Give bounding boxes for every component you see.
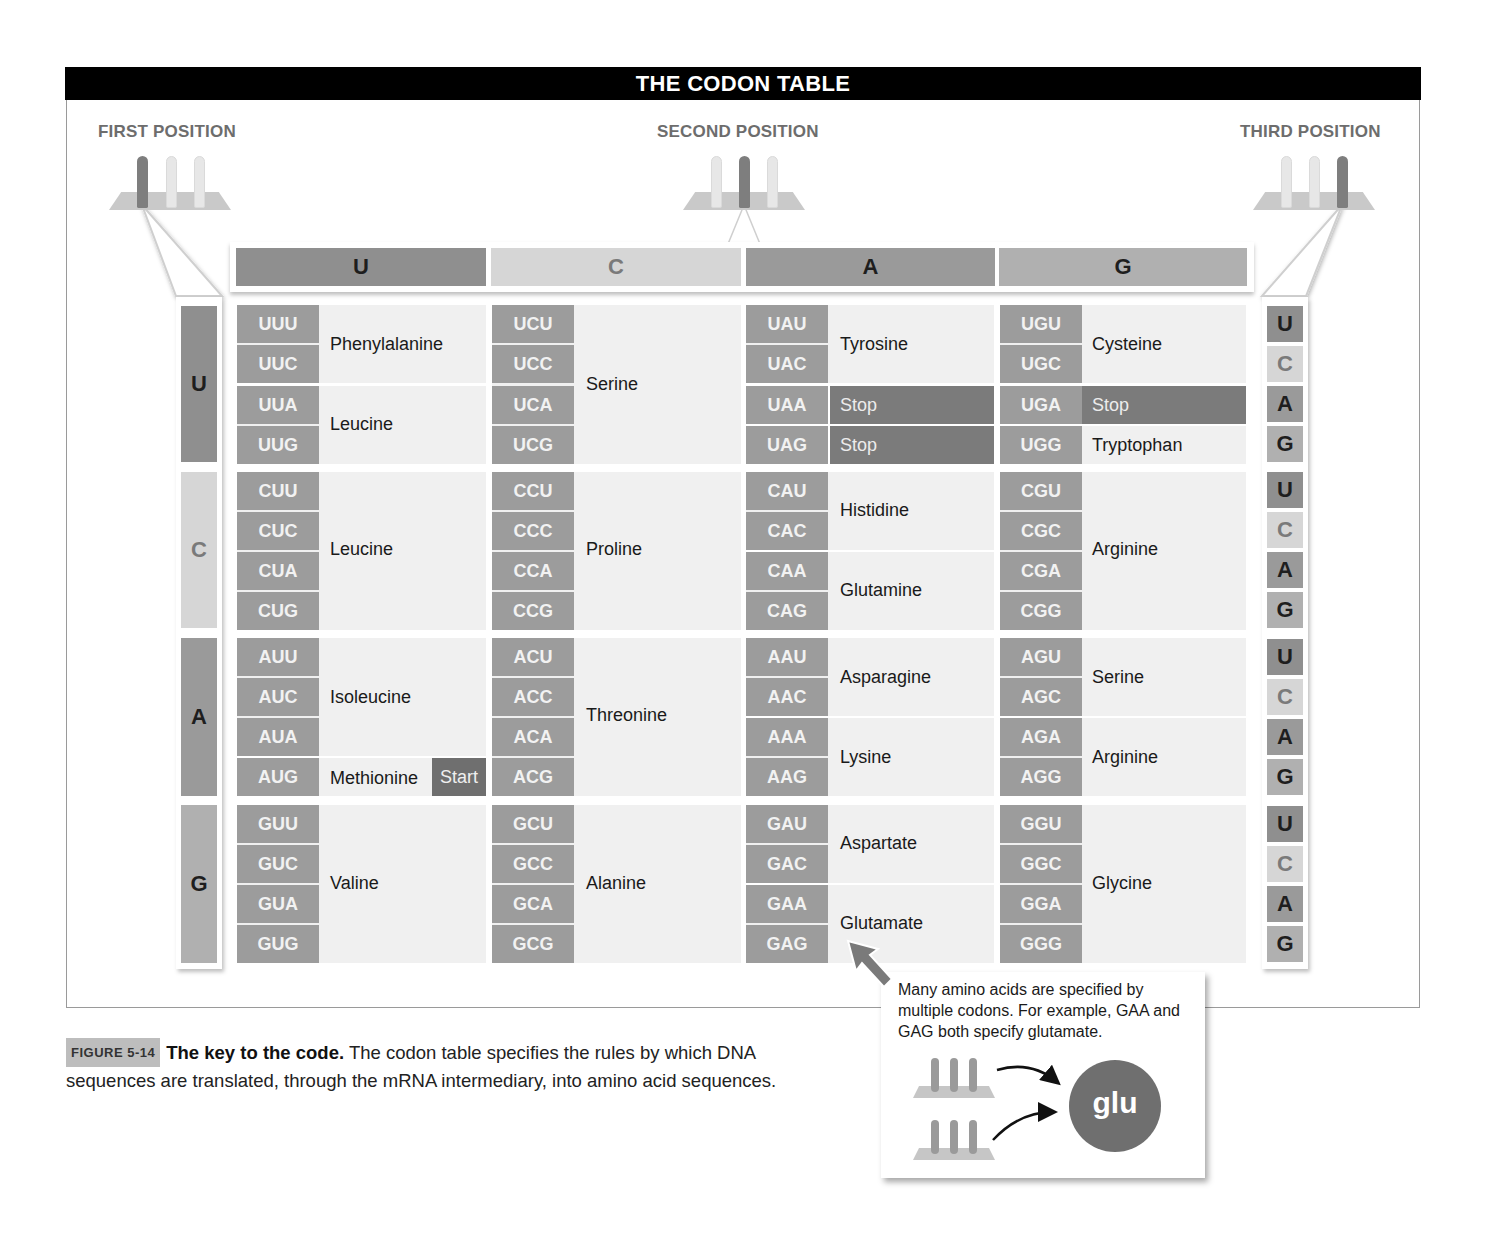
third-base-a: A xyxy=(1267,886,1303,922)
codon-cell: CCC xyxy=(492,512,574,550)
amino-acid-label: Glycine xyxy=(1092,872,1152,894)
third-base-a: A xyxy=(1267,552,1303,588)
codon-cell: GGU xyxy=(1000,805,1082,843)
codon-cell: CUG xyxy=(237,592,319,630)
amino-acid-label: Threonine xyxy=(586,704,667,726)
second-position-header: U C A G xyxy=(230,242,1254,292)
third-base-c: C xyxy=(1267,512,1303,548)
codon-cell: GGA xyxy=(1000,885,1082,923)
codon-cell: AAA xyxy=(746,718,828,756)
third-base-u: U xyxy=(1267,806,1303,842)
codon-cell: CGA xyxy=(1000,552,1082,590)
third-base-g: G xyxy=(1267,426,1303,462)
second-base-g: G xyxy=(999,248,1247,286)
codon-cell: UGA xyxy=(1000,386,1082,424)
codon-cell: UUG xyxy=(237,426,319,464)
codon-cell: AGG xyxy=(1000,758,1082,796)
codon-cell: AUC xyxy=(237,678,319,716)
codon-icon-gag xyxy=(913,1120,995,1160)
start-codon-badge: Start xyxy=(432,758,486,796)
codon-cell: GCU xyxy=(492,805,574,843)
codon-cell: UGU xyxy=(1000,305,1082,343)
codon-cell: ACC xyxy=(492,678,574,716)
codon-cell: UUC xyxy=(237,345,319,383)
amino-acid-label: Phenylalanine xyxy=(330,333,443,355)
codon-icon-gaa xyxy=(913,1058,995,1098)
second-position-codon-icon xyxy=(683,156,807,220)
amino-acid-label: Cysteine xyxy=(1092,333,1162,355)
codon-cell: AGU xyxy=(1000,638,1082,676)
codon-cell: CGC xyxy=(1000,512,1082,550)
codon-cell: AUA xyxy=(237,718,319,756)
first-base-a: A xyxy=(181,638,217,796)
third-base-g: G xyxy=(1267,592,1303,628)
codon-cell: UGG xyxy=(1000,426,1082,464)
codon-cell: AAG xyxy=(746,758,828,796)
codon-cell: UCG xyxy=(492,426,574,464)
codon-cell: CCU xyxy=(492,472,574,510)
codon-cell: UUA xyxy=(237,386,319,424)
amino-acid-label: Tyrosine xyxy=(840,333,908,355)
codon-cell: CUC xyxy=(237,512,319,550)
codon-cell: CUU xyxy=(237,472,319,510)
codon-cell: ACU xyxy=(492,638,574,676)
third-position-column: U C A G U C A G U C A G U C A G xyxy=(1262,297,1308,969)
codon-cell: GAG xyxy=(746,925,828,963)
third-base-u: U xyxy=(1267,472,1303,508)
codon-cell: UAA xyxy=(746,386,828,424)
codon-cell: UCU xyxy=(492,305,574,343)
third-base-g: G xyxy=(1267,926,1303,962)
second-base-a: A xyxy=(746,248,995,286)
codon-cell: GUU xyxy=(237,805,319,843)
codon-cell: CAU xyxy=(746,472,828,510)
codon-cell: UCC xyxy=(492,345,574,383)
amino-acid-label: Proline xyxy=(586,538,642,560)
amino-acid-label: Valine xyxy=(330,872,379,894)
first-position-label: FIRST POSITION xyxy=(98,122,236,142)
amino-acid-label: Leucine xyxy=(330,413,393,435)
codon-cell: GUA xyxy=(237,885,319,923)
amino-acid-label: Methionine xyxy=(330,767,418,789)
amino-acid-label: Arginine xyxy=(1092,538,1158,560)
first-base-u: U xyxy=(181,306,217,462)
codon-cell: UCA xyxy=(492,386,574,424)
codon-cell: GAU xyxy=(746,805,828,843)
first-base-g: G xyxy=(181,805,217,963)
third-base-a: A xyxy=(1267,386,1303,422)
codon-cell: GCA xyxy=(492,885,574,923)
amino-acid-label: Serine xyxy=(586,373,638,395)
codon-cell: CGG xyxy=(1000,592,1082,630)
codon-cell: AAC xyxy=(746,678,828,716)
codon-cell: CCG xyxy=(492,592,574,630)
degeneracy-callout: Many amino acids are specified by multip… xyxy=(881,972,1205,1178)
codon-cell: CAA xyxy=(746,552,828,590)
first-position-codon-icon xyxy=(109,156,233,220)
third-base-c: C xyxy=(1267,679,1303,715)
first-base-c: C xyxy=(181,472,217,628)
codon-cell: AUG xyxy=(237,758,319,796)
stop-codon-label: Stop xyxy=(830,426,994,464)
third-base-u: U xyxy=(1267,306,1303,342)
glutamate-badge: glu xyxy=(1069,1060,1161,1152)
amino-acid-label: Isoleucine xyxy=(330,686,411,708)
second-base-c: C xyxy=(491,248,741,286)
amino-acid-label: Tryptophan xyxy=(1092,434,1182,456)
third-position-codon-icon xyxy=(1253,156,1377,220)
codon-cell: GAA xyxy=(746,885,828,923)
second-base-u: U xyxy=(236,248,486,286)
codon-to-amino-acid-diagram xyxy=(881,972,1205,1178)
amino-acid-label: Serine xyxy=(1092,666,1144,688)
callout-pointer-arrow xyxy=(840,935,900,995)
third-position-label: THIRD POSITION xyxy=(1240,122,1381,142)
figure-number-tag: FIGURE 5-14 xyxy=(66,1038,160,1067)
codon-cell: AGA xyxy=(1000,718,1082,756)
codon-cell: ACG xyxy=(492,758,574,796)
codon-cell: GCG xyxy=(492,925,574,963)
amino-acid-label: Glutamate xyxy=(840,912,923,934)
amino-acid-label: Lysine xyxy=(840,746,891,768)
codon-cell: GGG xyxy=(1000,925,1082,963)
codon-cell: UAG xyxy=(746,426,828,464)
codon-cell: AAU xyxy=(746,638,828,676)
amino-acid-label: Alanine xyxy=(586,872,646,894)
third-base-c: C xyxy=(1267,846,1303,882)
